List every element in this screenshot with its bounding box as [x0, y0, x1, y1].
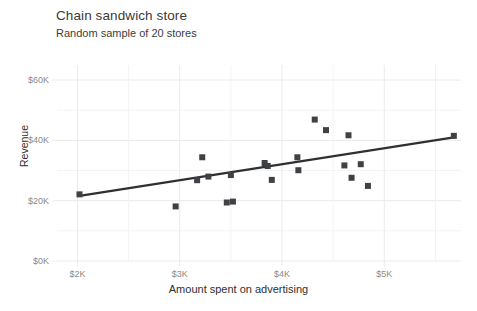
data-point: [365, 183, 371, 189]
data-point: [341, 162, 347, 168]
y-axis-tick-label: $60K: [8, 75, 49, 85]
data-point: [224, 200, 230, 206]
data-point: [228, 172, 234, 178]
data-point: [173, 203, 179, 209]
data-point: [294, 154, 300, 160]
scatter-plot-canvas: [0, 0, 477, 311]
x-axis-tick-label: $2K: [69, 269, 85, 279]
data-point: [451, 133, 457, 139]
plot-background: [57, 65, 461, 261]
data-point: [199, 154, 205, 160]
data-point: [194, 177, 200, 183]
data-point: [345, 132, 351, 138]
data-point: [358, 161, 364, 167]
data-point: [349, 175, 355, 181]
x-axis-tick-label: $3K: [172, 269, 188, 279]
y-axis-tick-label: $0K: [8, 256, 49, 266]
y-axis-tick-label: $40K: [8, 135, 49, 145]
x-axis-tick-label: $4K: [274, 269, 290, 279]
data-point: [230, 199, 236, 205]
data-point: [269, 177, 275, 183]
x-axis-tick-label: $5K: [376, 269, 392, 279]
data-point: [323, 127, 329, 133]
data-point: [295, 167, 301, 173]
y-axis-tick-label: $20K: [8, 196, 49, 206]
data-point: [312, 117, 318, 123]
chart-figure: Chain sandwich store Random sample of 20…: [0, 0, 477, 311]
data-point: [265, 163, 271, 169]
data-point: [205, 174, 211, 180]
data-point: [77, 191, 83, 197]
